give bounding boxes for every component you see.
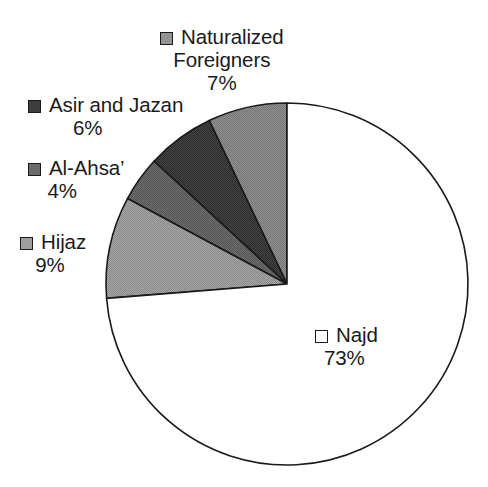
legend-entry-hijaz: Hijaz 9% xyxy=(20,231,86,277)
legend-row: Al-Ahsa’ xyxy=(28,157,125,180)
legend-entry-al-ahsa: Al-Ahsa’ 4% xyxy=(28,157,125,203)
legend-percent-al-ahsa: 4% xyxy=(28,180,125,203)
legend-swatch-naturalized-foreigners-icon xyxy=(160,32,173,45)
legend-row: Hijaz xyxy=(20,231,86,254)
legend-entry-najd: Najd 73% xyxy=(315,324,378,370)
legend-row: Najd xyxy=(315,324,378,347)
legend-row: Asir and Jazan xyxy=(28,94,183,117)
legend-label-naturalized-foreigners: Naturalized xyxy=(181,26,284,49)
legend-label-al-ahsa: Al-Ahsa’ xyxy=(49,157,125,180)
legend-entry-naturalized-foreigners: Naturalized Foreigners 7% xyxy=(160,26,284,95)
legend-percent-najd: 73% xyxy=(315,347,378,370)
legend-label-hijaz: Hijaz xyxy=(41,231,86,254)
legend-swatch-hijaz-icon xyxy=(20,237,33,250)
legend-percent-hijaz: 9% xyxy=(20,254,86,277)
legend-percent-asir-and-jazan: 6% xyxy=(28,117,183,140)
legend-entry-asir-and-jazan: Asir and Jazan 6% xyxy=(28,94,183,140)
legend-percent-naturalized-foreigners: 7% xyxy=(160,72,284,95)
pie-chart-figure: Naturalized Foreigners 7% Asir and Jazan… xyxy=(0,0,488,487)
legend-label-asir-and-jazan: Asir and Jazan xyxy=(49,94,183,117)
legend-row: Naturalized xyxy=(160,26,284,49)
legend-swatch-al-ahsa-icon xyxy=(28,163,41,176)
legend-label-najd: Najd xyxy=(336,324,378,347)
legend-swatch-najd-icon xyxy=(315,330,328,343)
legend-swatch-asir-and-jazan-icon xyxy=(28,100,41,113)
legend-label-naturalized-foreigners-line2: Foreigners xyxy=(160,49,284,72)
